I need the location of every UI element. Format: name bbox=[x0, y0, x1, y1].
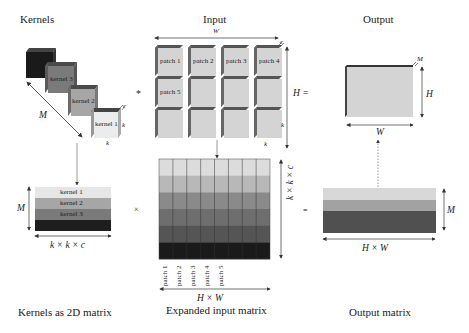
expanded-col-label: patch 1 bbox=[161, 266, 169, 286]
output-matrix-dim-cols: H × W bbox=[362, 243, 388, 253]
output-matrix-caption: Output matrix bbox=[349, 306, 411, 318]
input-patch-label: patch 5 bbox=[160, 88, 180, 96]
input-patch-label: patch 4 bbox=[259, 57, 279, 65]
input-dim-k-bottom: k bbox=[264, 140, 267, 148]
output-dim-H: H bbox=[426, 89, 433, 99]
expanded-col-label: patch 2 bbox=[175, 266, 183, 286]
input-dim-k-side: k bbox=[281, 121, 284, 129]
convolve-operator: * bbox=[136, 88, 141, 99]
output-matrix bbox=[323, 188, 436, 233]
kernels-dim-k-bottom: k bbox=[106, 139, 109, 147]
kernel-cube-2-label: kernel 2 bbox=[72, 97, 95, 105]
input-patch-label: patch 3 bbox=[226, 57, 246, 65]
kernel-matrix-row-label: kernel 3 bbox=[60, 210, 83, 218]
equals-operator: = bbox=[303, 206, 308, 215]
input-dim-c: c bbox=[280, 38, 283, 46]
input-equals: = bbox=[303, 88, 308, 98]
expanded-dim-rows: k × k × c bbox=[285, 165, 295, 200]
expanded-dim-cols: H × W bbox=[197, 293, 223, 303]
kernels-dim-c: c bbox=[123, 102, 126, 110]
input-title: Input bbox=[203, 13, 226, 25]
kernels-2d-caption: Kernels as 2D matrix bbox=[18, 306, 112, 318]
kernel-matrix-row-label: kernel 2 bbox=[60, 199, 83, 207]
input-patch-label: patch 1 bbox=[160, 57, 180, 65]
diagram-graphics bbox=[0, 0, 469, 333]
expanded-col-label: patch 4 bbox=[203, 266, 211, 286]
kernel-matrix-row-label: kernel 1 bbox=[60, 188, 83, 196]
output-dim-W: W bbox=[376, 127, 384, 137]
kernels-title: Kernels bbox=[20, 13, 54, 25]
kernel-matrix-dim-M: M bbox=[17, 203, 25, 213]
input-dim-W: W bbox=[213, 27, 219, 35]
output-dim-M: M bbox=[417, 55, 423, 63]
output-title: Output bbox=[363, 13, 394, 25]
input-dim-H: H bbox=[293, 88, 300, 98]
kernel-cube-3-label: kernel 3 bbox=[50, 75, 73, 83]
input-patch-label: patch 2 bbox=[193, 57, 213, 65]
expanded-matrix bbox=[159, 159, 270, 259]
expanded-caption: Expanded input matrix bbox=[166, 304, 267, 316]
kernel-matrix-dim-cols: k × k × c bbox=[50, 240, 85, 250]
output-matrix-dim-M: M bbox=[447, 205, 455, 215]
expanded-col-label: patch 3 bbox=[189, 266, 197, 286]
kernels-dim-M: M bbox=[39, 110, 47, 120]
times-operator: × bbox=[134, 205, 139, 214]
expanded-col-label: patch 5 bbox=[217, 266, 225, 286]
kernels-dim-k-side: k bbox=[122, 121, 125, 129]
kernel-cube-1-label: kernel 1 bbox=[95, 120, 118, 128]
